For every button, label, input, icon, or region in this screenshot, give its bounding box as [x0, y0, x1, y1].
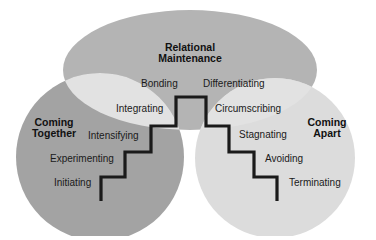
relational-maintenance-line2: Maintenance: [150, 53, 230, 64]
coming-apart-heading: Coming Apart: [302, 117, 352, 139]
stage-initiating: Initiating: [54, 178, 91, 188]
coming-apart-line2: Apart: [302, 128, 352, 139]
stage-integrating: Integrating: [116, 104, 163, 114]
stage-experimenting: Experimenting: [50, 154, 114, 164]
stage-bonding: Bonding: [141, 79, 178, 89]
coming-together-heading: Coming Together: [28, 117, 80, 139]
stage-avoiding: Avoiding: [265, 154, 303, 164]
relational-maintenance-heading: Relational Maintenance: [150, 42, 230, 64]
stage-circumscribing: Circumscribing: [215, 104, 281, 114]
stage-differentiating: Differentiating: [203, 79, 265, 89]
coming-together-line2: Together: [28, 128, 80, 139]
stage-intensifying: Intensifying: [88, 131, 139, 141]
stage-terminating: Terminating: [289, 178, 341, 188]
stage-stagnating: Stagnating: [239, 130, 287, 140]
